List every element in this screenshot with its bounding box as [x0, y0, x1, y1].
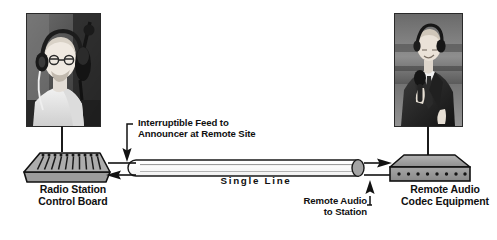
label-interruptible-feed: Interruptible Feed to Announcer at Remot… — [138, 118, 318, 139]
label-remote-audio-to-station: Remote Audio to Station — [250, 196, 367, 217]
leader-interruptible-feed — [122, 124, 133, 162]
single-line-pipe — [128, 160, 364, 177]
radio-station-control-board — [24, 153, 110, 182]
label-remote-audio-codec-equipment: Remote Audio Codec Equipment — [390, 184, 497, 208]
label-single-line: Single Line — [186, 176, 326, 187]
label-radio-station-control-board: Radio Station Control Board — [14, 184, 132, 208]
diagram-canvas: Interruptible Feed to Announcer at Remot… — [0, 0, 497, 240]
remote-audio-codec-equipment — [390, 155, 470, 181]
